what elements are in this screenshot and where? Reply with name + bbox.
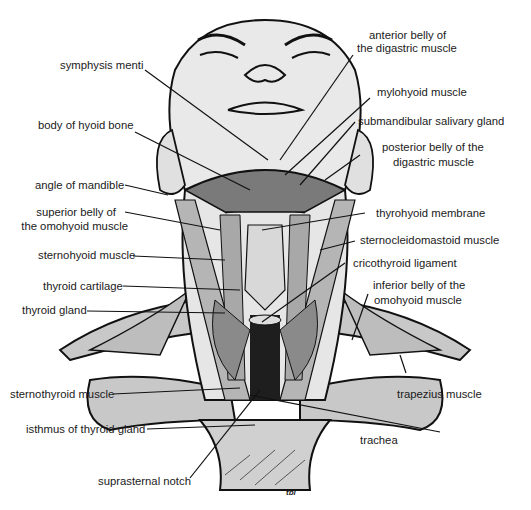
- label-inferior-belly-omohyoid-1: inferior belly of the: [373, 279, 465, 292]
- label-symphysis-menti: symphysis menti: [60, 59, 144, 72]
- label-mylohyoid-muscle: mylohyoid muscle: [377, 86, 467, 99]
- label-suprasternal-notch: suprasternal notch: [98, 475, 191, 488]
- label-posterior-belly-digastric-1: posterior belly of the: [382, 141, 484, 154]
- trapezius-left: [90, 290, 190, 355]
- label-anterior-belly-digastric-1: anterior belly of: [369, 29, 446, 42]
- label-submandibular-salivary-gland: submandibular salivary gland: [358, 115, 504, 128]
- label-sternothyroid-muscle: sternothyroid muscle: [10, 388, 114, 401]
- trachea: [250, 315, 280, 400]
- label-cricothyroid-ligament: cricothyroid ligament: [353, 257, 457, 270]
- label-sternohyoid-muscle: sternohyoid muscle: [38, 249, 135, 262]
- label-thyroid-cartilage: thyroid cartilage: [43, 280, 123, 293]
- manubrium: [200, 420, 330, 490]
- label-body-of-hyoid-bone: body of hyoid bone: [38, 119, 133, 132]
- label-trachea: trachea: [360, 434, 398, 447]
- label-thyrohyoid-membrane: thyrohyoid membrane: [376, 207, 485, 220]
- artist-signature: tbl: [286, 488, 296, 497]
- label-thyroid-gland: thyroid gland: [22, 304, 87, 317]
- label-posterior-belly-digastric-2: digastric muscle: [393, 156, 474, 169]
- label-angle-of-mandible: angle of mandible: [35, 179, 124, 192]
- label-trapezius-muscle: trapezius muscle: [397, 388, 482, 401]
- label-inferior-belly-omohyoid-2: omohyoid muscle: [374, 294, 462, 307]
- label-isthmus-of-thyroid-gland: isthmus of thyroid gland: [26, 423, 145, 436]
- label-superior-belly-omohyoid-1: superior belly of: [36, 206, 116, 219]
- label-superior-belly-omohyoid-2: the omohyoid muscle: [21, 220, 128, 233]
- head: [169, 20, 360, 190]
- label-sternocleidomastoid-muscle: sternocleidomastoid muscle: [360, 234, 499, 247]
- label-anterior-belly-digastric-2: the digastric muscle: [357, 42, 457, 55]
